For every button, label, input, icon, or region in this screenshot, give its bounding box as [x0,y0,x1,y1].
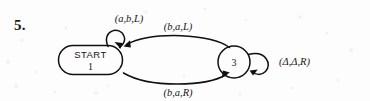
transition-arc-3-to-1 [124,36,230,48]
state-1-start-label: START [74,49,106,60]
label-arc-1-to-3: (b,a,R) [163,87,193,99]
transition-self-loop-state-3 [249,54,269,76]
state-3-number: 3 [232,57,237,68]
label-self-loop-state-3: (Δ,Δ,R) [279,56,310,68]
label-arc-3-to-1: (b,a,L) [164,21,193,33]
transition-arc-1-to-3 [124,70,230,84]
figure-canvas: 5. START 1 3 [0,0,370,101]
arc-1-to-3-path [124,73,227,84]
arc-3-to-1-path [127,36,230,48]
state-1: START 1 [59,46,123,75]
label-self-loop-state-1: (a,b,L) [115,13,144,25]
state-1-number: 1 [88,61,93,72]
state-diagram: START 1 3 (a,b,L) (b,a,L) [0,0,370,101]
